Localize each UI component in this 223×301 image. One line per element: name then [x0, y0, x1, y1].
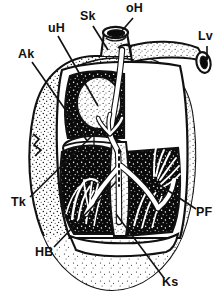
pulmonary-vessel-stub [130, 42, 206, 62]
label-uH: uH [48, 22, 65, 35]
label-HB: HB [35, 246, 53, 259]
label-oH: oH [126, 2, 143, 15]
his-bundle-core [118, 152, 119, 222]
label-Sk: Sk [80, 10, 96, 23]
cut-window-group [57, 62, 188, 256]
label-Ks: Ks [162, 276, 178, 289]
label-Lv: Lv [198, 30, 213, 43]
label-Ak: Ak [18, 48, 34, 61]
heart-diagram-figure: uH Sk oH Lv Ak Tk HB Ks PF [0, 0, 223, 301]
label-PF: PF [196, 206, 212, 219]
label-Tk: Tk [11, 196, 26, 209]
heart-illustration-svg [0, 0, 223, 301]
